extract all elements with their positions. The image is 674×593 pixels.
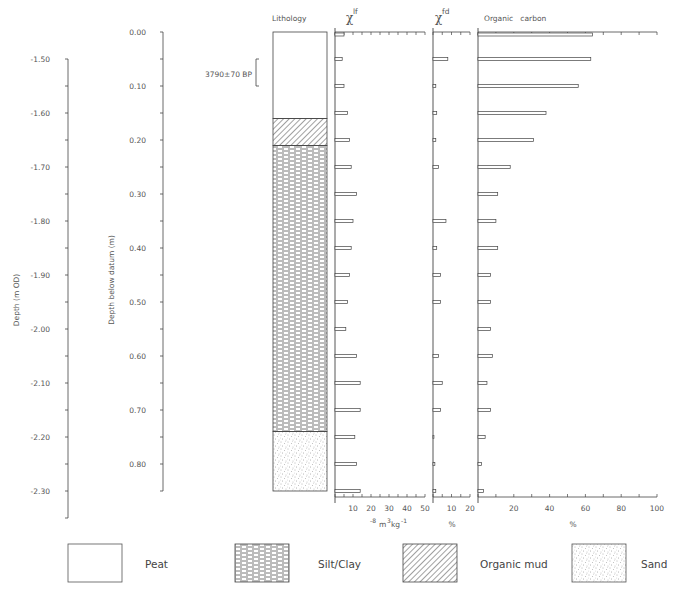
- x-tick-label: 20: [465, 504, 475, 513]
- data-bar: [478, 490, 483, 493]
- data-bar: [433, 58, 448, 61]
- data-bar: [335, 58, 342, 61]
- data-bar: [433, 301, 440, 304]
- od-tick-label: -1.50: [31, 55, 51, 64]
- data-bar: [335, 301, 348, 304]
- x-tick-label: 30: [384, 504, 394, 513]
- datum-tick-label: 0.20: [129, 136, 146, 145]
- data-bar: [478, 220, 496, 223]
- lithology-unit-peat: [273, 32, 327, 118]
- svg-text:Sand: Sand: [641, 558, 667, 570]
- data-bar: [433, 436, 434, 439]
- svg-text:m: m: [379, 520, 386, 529]
- x-tick-label: 20: [509, 504, 519, 513]
- legend-item-silt-clay: Silt/Clay: [235, 544, 361, 582]
- data-bar: [335, 193, 357, 196]
- data-bar: [478, 85, 578, 88]
- data-bar: [433, 220, 446, 223]
- data-bar: [478, 436, 485, 439]
- lithology-title: Lithology: [272, 14, 307, 23]
- svg-text:-8: -8: [370, 517, 376, 524]
- data-bar: [335, 382, 360, 385]
- data-bar: [433, 463, 435, 466]
- svg-text:Silt/Clay: Silt/Clay: [318, 558, 361, 570]
- datum-tick-label: 0.00: [129, 28, 146, 37]
- x-tick-label: 10: [447, 504, 457, 513]
- organic-carbon-title: Organic carbon: [484, 14, 546, 23]
- pollen-style-core-diagram: -1.50-1.60-1.70-1.80-1.90-2.00-2.10-2.20…: [0, 0, 674, 593]
- x-tick-label: 100: [650, 504, 665, 513]
- chi-lf-panel: 1020304050: [335, 28, 430, 513]
- data-bar: [335, 409, 360, 412]
- data-bar: [335, 220, 353, 223]
- chi-fd-unit: %: [448, 520, 455, 529]
- lithology-column: [273, 32, 327, 491]
- data-bar: [478, 355, 492, 358]
- x-tick-label: 80: [616, 504, 626, 513]
- lithology-unit-organic-mud: [273, 118, 327, 145]
- datum-tick-label: 0.70: [129, 406, 146, 415]
- datum-tick-label: 0.10: [129, 82, 146, 91]
- x-tick-label: 10: [348, 504, 358, 513]
- data-bar: [478, 58, 591, 61]
- data-bar: [335, 166, 351, 169]
- organic-carbon-unit: %: [569, 520, 576, 529]
- od-tick-label: -1.70: [31, 163, 51, 172]
- data-bar: [478, 139, 533, 142]
- date-label: 3790±70 BP: [205, 70, 252, 79]
- data-bar: [335, 247, 351, 250]
- data-bar: [433, 490, 436, 493]
- legend-item-organic-mud: Organic mud: [403, 544, 548, 582]
- data-bar: [478, 409, 491, 412]
- svg-text:kg: kg: [391, 520, 400, 529]
- datum-tick-label: 0.30: [129, 190, 146, 199]
- data-bar: [433, 382, 442, 385]
- radiocarbon-date-annotation: 3790±70 BP: [205, 59, 259, 86]
- data-bar: [433, 274, 440, 277]
- data-bar: [478, 166, 510, 169]
- data-bar: [335, 112, 348, 115]
- svg-text:Organic mud: Organic mud: [480, 558, 548, 570]
- data-bar: [335, 139, 349, 142]
- data-bar: [433, 166, 439, 169]
- chi-fd-title-sub: fd: [442, 7, 450, 16]
- data-bar: [335, 490, 360, 493]
- data-bar: [433, 409, 440, 412]
- datum-tick-label: 0.60: [129, 352, 146, 361]
- x-tick-label: 50: [420, 504, 430, 513]
- data-bar: [433, 247, 437, 250]
- data-bar: [478, 193, 498, 196]
- legend: Peat Silt/Clay Organic mud Sand: [68, 544, 667, 582]
- datum-tick-label: 0.80: [129, 460, 146, 469]
- svg-text:Peat: Peat: [145, 558, 168, 570]
- datum-tick-label: 0.50: [129, 298, 146, 307]
- data-bar: [335, 328, 346, 331]
- data-bar: [478, 328, 491, 331]
- data-bar: [433, 355, 439, 358]
- datum-depth-axis: 0.000.100.200.300.400.500.600.700.80: [129, 28, 163, 491]
- od-tick-label: -1.60: [31, 109, 51, 118]
- od-axis-label: Depth (m OD): [12, 274, 21, 327]
- data-bar: [478, 274, 491, 277]
- datum-axis-label: Depth below datum (m): [107, 235, 116, 325]
- legend-item-peat: Peat: [68, 544, 168, 582]
- od-tick-label: -2.20: [31, 433, 51, 442]
- datum-tick-label: 0.40: [129, 244, 146, 253]
- x-tick-label: 20: [366, 504, 376, 513]
- chi-fd-panel: 1020: [433, 28, 475, 513]
- data-bar: [433, 112, 437, 115]
- chi-lf-title-sub: lf: [353, 7, 358, 16]
- od-tick-label: -2.30: [31, 487, 51, 496]
- chi-lf-unit: -8 m 3 kg -1: [370, 517, 407, 529]
- svg-text:-1: -1: [401, 517, 407, 524]
- data-bar: [478, 301, 491, 304]
- organic-carbon-panel: 20406080100: [478, 28, 664, 513]
- data-bar: [478, 463, 482, 466]
- x-tick-label: 40: [545, 504, 555, 513]
- data-bar: [478, 33, 593, 36]
- data-bar: [335, 274, 349, 277]
- od-tick-label: -2.10: [31, 379, 51, 388]
- data-bar: [433, 85, 436, 88]
- od-tick-label: -1.90: [31, 271, 51, 280]
- lithology-unit-silt-clay: [273, 145, 327, 431]
